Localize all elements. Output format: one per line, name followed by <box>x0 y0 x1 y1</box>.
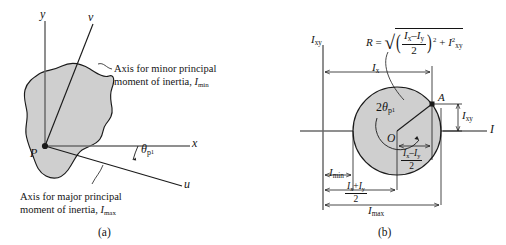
point-p-marker <box>42 143 48 149</box>
axis-label-ixy: Ixy <box>311 34 322 48</box>
dim-label-ix: Ix <box>372 62 379 76</box>
fraction-half-diff-inner: Ix–Iy 2 <box>401 148 422 171</box>
radius-formula: R = √ ( Ix–Iy 2 )2 + I2xy <box>366 28 463 57</box>
panel-a-graphics <box>24 21 190 186</box>
note-minor-principal: Axis for minor principal moment of inert… <box>114 62 216 90</box>
angle-label-2theta-p1: 2θp1 <box>376 101 395 116</box>
dim-label-half-sum: Ix+Iy 2 <box>345 181 367 204</box>
note-major-line2: moment of inertia, Imax <box>20 203 122 218</box>
fraction-half-diff: Ix–Iy 2 <box>402 30 426 57</box>
formula-plus: + <box>439 36 445 48</box>
dim-label-imin: Imin <box>329 167 344 181</box>
radical-icon: √ <box>384 33 395 53</box>
dim-label-imax: Imax <box>368 205 384 219</box>
center-label-o: O <box>387 132 395 144</box>
dim-label-half-diff: Ix–Iy 2 <box>401 148 422 171</box>
axis-label-x: x <box>192 137 197 150</box>
figure-container: y v x u P θp1 Axis for minor principal m… <box>0 0 506 245</box>
fraction-half-sum: Ix+Iy 2 <box>345 181 367 204</box>
formula-equals: = <box>375 36 381 48</box>
paren-close-icon: ) <box>427 32 432 54</box>
leader-minor-note <box>98 64 112 69</box>
angle-label-theta-p1-a: θp1 <box>141 143 154 158</box>
axis-label-i: I <box>490 123 494 136</box>
point-label-p: P <box>30 147 37 160</box>
caption-panel-b: (b) <box>378 226 391 238</box>
axis-label-y: y <box>40 8 45 21</box>
dim-label-ixy-right: Ixy <box>462 110 473 124</box>
note-major-line1: Axis for major principal <box>20 190 122 203</box>
note-minor-line1: Axis for minor principal <box>114 62 216 75</box>
axis-label-v: v <box>88 11 93 24</box>
paren-open-icon: ( <box>396 32 401 54</box>
panel-b-graphics <box>300 45 487 210</box>
note-major-principal: Axis for major principal moment of inert… <box>20 190 122 218</box>
note-minor-line2: moment of inertia, Imin <box>114 75 216 90</box>
leader-major-note <box>92 165 103 184</box>
axis-label-u: u <box>184 178 190 191</box>
point-label-a: A <box>438 92 445 104</box>
cross-section-blob <box>24 63 113 178</box>
caption-panel-a: (a) <box>98 226 111 238</box>
